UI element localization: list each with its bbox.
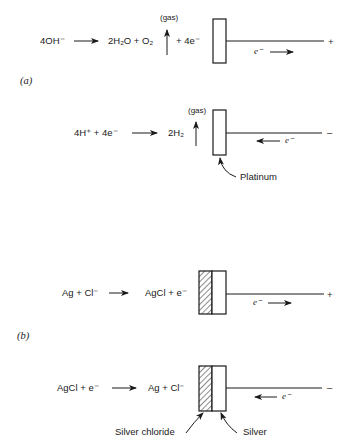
cathode-product: 2H₂	[168, 128, 184, 138]
silver-chloride-label: Silver chloride	[115, 427, 175, 437]
positive-terminal: +	[328, 37, 334, 47]
panel-b-label: (b)	[17, 331, 29, 342]
platinum-pointer	[220, 158, 236, 177]
anode-products: 2H₂O + O₂	[108, 36, 153, 46]
electron-flow-label: e⁻	[285, 136, 294, 145]
silver-label: Silver	[243, 427, 267, 437]
gas-label: (gas)	[160, 14, 178, 22]
silver-chloride-pointer	[186, 413, 203, 433]
negative-terminal: –	[327, 128, 332, 138]
gas-label: (gas)	[188, 107, 206, 115]
platinum-electrode	[213, 19, 226, 63]
panel-b-anode	[109, 271, 324, 314]
silver-chloride-layer	[199, 271, 212, 314]
platinum-electrode	[213, 110, 226, 155]
positive-terminal: +	[327, 290, 333, 300]
cathode-reactants: AgCl + e⁻	[57, 383, 99, 393]
anode-products: AgCl + e⁻	[145, 288, 187, 298]
anode-electrons: + 4e⁻	[176, 36, 200, 46]
silver-electrode	[212, 366, 226, 411]
electron-flow-label: e⁻	[254, 47, 263, 56]
anode-reactants: Ag + Cl⁻	[62, 288, 98, 298]
cathode-reactants: 4H⁺ + 4e⁻	[74, 128, 118, 138]
negative-terminal: –	[327, 383, 332, 393]
electron-flow-label: e⁻	[253, 298, 262, 307]
panel-a-label: (a)	[20, 76, 32, 87]
silver-electrode	[212, 271, 226, 314]
silver-pointer	[221, 413, 237, 433]
platinum-label: Platinum	[240, 172, 277, 182]
electron-flow-label: e⁻	[282, 392, 291, 401]
cathode-products: Ag + Cl⁻	[148, 383, 184, 393]
anode-reactant: 4OH⁻	[40, 36, 65, 46]
silver-chloride-layer	[199, 366, 212, 411]
